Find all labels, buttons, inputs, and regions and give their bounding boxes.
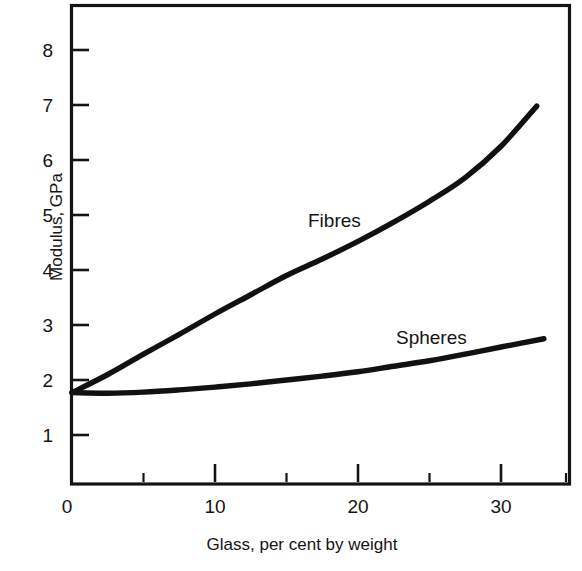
series-curve-fibres bbox=[72, 106, 537, 393]
x-axis-major-ticks bbox=[215, 464, 501, 482]
chart-figure: 8 7 6 5 4 3 2 1 0 10 20 30 Fibres Sphere… bbox=[0, 0, 582, 571]
x-tick-label-20: 20 bbox=[339, 497, 377, 516]
x-tick-label-10: 10 bbox=[196, 497, 234, 516]
y-axis-title: Modulus, GPa bbox=[48, 127, 66, 327]
y-tick-label-2: 2 bbox=[33, 371, 53, 390]
y-tick-label-1: 1 bbox=[33, 426, 53, 445]
y-axis-title-wrapper: Modulus, GPa bbox=[48, 127, 72, 327]
x-tick-label-30: 30 bbox=[482, 497, 520, 516]
x-axis-title: Glass, per cent by weight bbox=[152, 536, 452, 554]
y-tick-label-7: 7 bbox=[33, 96, 53, 115]
series-label-fibres: Fibres bbox=[308, 211, 361, 230]
series-label-spheres: Spheres bbox=[396, 328, 467, 347]
chart-plot-area bbox=[0, 0, 582, 571]
plot-frame bbox=[72, 6, 570, 485]
x-axis-minor-ticks bbox=[144, 473, 567, 482]
x-tick-label-0: 0 bbox=[52, 497, 82, 516]
series-curve-spheres bbox=[72, 339, 544, 393]
y-tick-label-8: 8 bbox=[33, 41, 53, 60]
y-axis-major-ticks bbox=[73, 50, 89, 435]
